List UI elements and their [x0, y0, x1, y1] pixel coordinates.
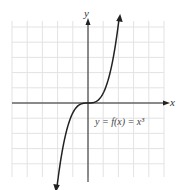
x-axis-arrow	[163, 101, 170, 106]
curve-arrow-bottom	[53, 184, 60, 190]
y-axis-arrow	[86, 18, 91, 25]
y-axis-label: y	[83, 7, 89, 19]
function-annotation: y = f(x) = x³	[94, 116, 145, 128]
curve-arrow-top	[116, 14, 123, 22]
x-axis-label: x	[169, 96, 175, 108]
chart: y x y = f(x) = x³	[0, 0, 181, 190]
